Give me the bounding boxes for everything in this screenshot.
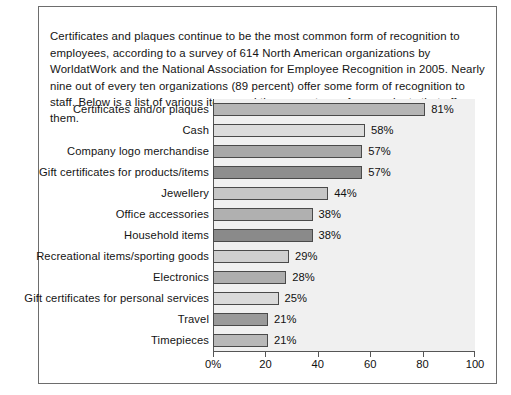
x-axis-tick [474,351,475,357]
bar-track: 38% [213,225,475,246]
bar-row: Household items38% [39,225,496,246]
bar-category-label: Company logo merchandise [67,141,209,162]
bar-category-label: Gift certificates for products/items [39,162,209,183]
bar-value-label: 25% [279,288,307,309]
bar-row: Jewellery44% [39,183,496,204]
x-axis-tick [213,351,214,357]
x-axis-tick-label: 100 [466,358,485,370]
bar-value-label: 21% [268,309,296,330]
bar-value-label: 81% [425,99,453,120]
bar-row: Company logo merchandise57% [39,141,496,162]
bar-track: 21% [213,309,475,330]
bar-value-label: 57% [362,141,390,162]
bar-category-label: Timepieces [151,330,209,351]
bar [213,271,286,284]
x-axis-tick-label: 0% [205,358,221,370]
bar [213,334,268,347]
bar-row: Timepieces21% [39,330,496,351]
bar-row: Electronics28% [39,267,496,288]
x-axis-tick-label: 20 [259,358,271,370]
bar-track: 25% [213,288,475,309]
bar-row: Recreational items/sporting goods29% [39,246,496,267]
bar [213,124,365,137]
x-axis: 0%20406080100 [213,351,475,381]
bar-value-label: 38% [313,225,341,246]
bar-category-label: Cash [182,120,209,141]
bar-row: Cash58% [39,120,496,141]
bar [213,166,362,179]
x-axis-tick [318,351,319,357]
bar-chart: Certificates and/or plaques81%Cash58%Com… [39,99,496,383]
bar-row: Gift certificates for personal services2… [39,288,496,309]
bar-category-label: Household items [124,225,209,246]
bar-value-label: 29% [289,246,317,267]
bar-row: Gift certificates for products/items57% [39,162,496,183]
x-axis-tick-label: 40 [312,358,324,370]
x-axis-tick-label: 80 [416,358,428,370]
bar-row: Travel21% [39,309,496,330]
x-axis-tick-label: 60 [364,358,376,370]
x-axis-tick [423,351,424,357]
bar [213,187,328,200]
bar-value-label: 28% [286,267,314,288]
bar-row: Office accessories38% [39,204,496,225]
bar-track: 29% [213,246,475,267]
bar-track: 81% [213,99,475,120]
bar [213,229,313,242]
bar-track: 44% [213,183,475,204]
bar-track: 38% [213,204,475,225]
x-axis-tick [370,351,371,357]
bar-category-label: Certificates and/or plaques [73,99,209,120]
bar [213,292,279,305]
bar [213,250,289,263]
bar-category-label: Gift certificates for personal services [24,288,209,309]
bar-track: 58% [213,120,475,141]
bar-category-label: Office accessories [116,204,209,225]
bar [213,103,425,116]
bar-category-label: Recreational items/sporting goods [36,246,209,267]
x-axis-tick [265,351,266,357]
bar-track: 21% [213,330,475,351]
bar-value-label: 57% [362,162,390,183]
bar [213,208,313,221]
bar-row: Certificates and/or plaques81% [39,99,496,120]
bar-track: 57% [213,141,475,162]
bar [213,313,268,326]
bar-rows: Certificates and/or plaques81%Cash58%Com… [39,99,496,351]
x-axis-line [213,351,475,352]
bar-value-label: 21% [268,330,296,351]
bar-category-label: Travel [178,309,209,330]
bar [213,145,362,158]
bar-value-label: 38% [313,204,341,225]
bar-category-label: Electronics [153,267,209,288]
bar-category-label: Jewellery [161,183,209,204]
figure-frame: Certificates and plaques continue to be … [38,6,497,384]
bar-track: 57% [213,162,475,183]
bar-value-label: 44% [328,183,356,204]
bar-value-label: 58% [365,120,393,141]
bar-track: 28% [213,267,475,288]
